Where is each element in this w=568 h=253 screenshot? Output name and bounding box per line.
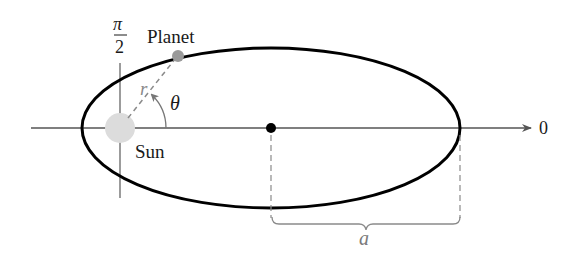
r-label: r <box>140 78 148 99</box>
theta-arc <box>152 95 166 128</box>
ellipse-center-dot <box>266 123 276 133</box>
pi-denominator: 2 <box>115 37 124 57</box>
a-label: a <box>359 227 369 249</box>
orbit-svg: π 2 Planet Sun r θ 0 a <box>0 0 568 253</box>
zero-label: 0 <box>539 118 548 138</box>
planet-label: Planet <box>147 26 195 47</box>
planet-icon <box>172 50 184 62</box>
pi-numerator: π <box>113 14 123 34</box>
theta-label: θ <box>170 92 180 114</box>
sun-icon <box>105 113 135 143</box>
sun-label: Sun <box>135 141 165 162</box>
orbit-diagram: π 2 Planet Sun r θ 0 a <box>0 0 568 253</box>
